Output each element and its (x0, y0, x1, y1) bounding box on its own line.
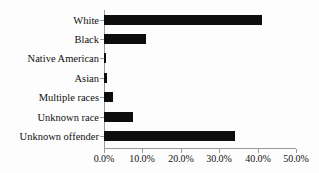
bar-asian (104, 73, 107, 83)
x-axis-tick-label-4: 40.0% (245, 153, 270, 164)
y-axis-label-5: Unknown race (0, 112, 99, 123)
x-axis-tick-label-5: 50.0% (283, 153, 308, 164)
y-axis-label-1: Black (0, 34, 99, 45)
x-axis-tick-label-2: 20.0% (168, 153, 193, 164)
y-axis-label-2: Native American (0, 53, 99, 64)
bar-unknown-offender (104, 131, 235, 141)
bar-white (104, 15, 262, 25)
bar-native-american (104, 53, 106, 63)
x-axis-line (104, 148, 296, 149)
x-axis-tick-label-0: 0.0% (94, 153, 114, 164)
y-axis-label-4: Multiple races (0, 92, 99, 103)
x-axis-tick-label-3: 30.0% (206, 153, 231, 164)
bar-multiple-races (104, 92, 113, 102)
bar-chart: White Black Native American Asian Multip… (0, 0, 319, 173)
y-axis-label-3: Asian (0, 73, 99, 84)
y-axis-label-6: Unknown offender (0, 131, 99, 142)
bar-unknown-race (104, 112, 133, 122)
y-axis-label-0: White (0, 15, 99, 26)
plot-area (104, 10, 296, 148)
bar-black (104, 34, 146, 44)
x-axis-tick-label-1: 10.0% (129, 153, 154, 164)
